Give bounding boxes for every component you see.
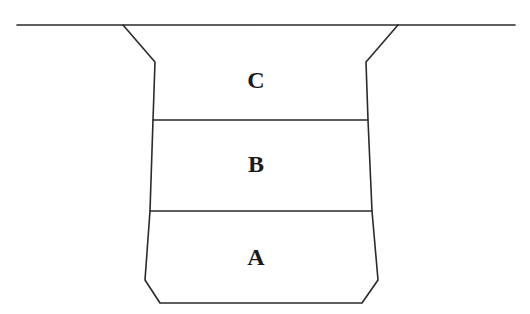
layer-label-a: A [247,244,265,270]
layer-label-c: C [247,67,264,93]
trench-diagram: C B A [0,0,530,314]
layer-label-b: B [248,151,264,177]
